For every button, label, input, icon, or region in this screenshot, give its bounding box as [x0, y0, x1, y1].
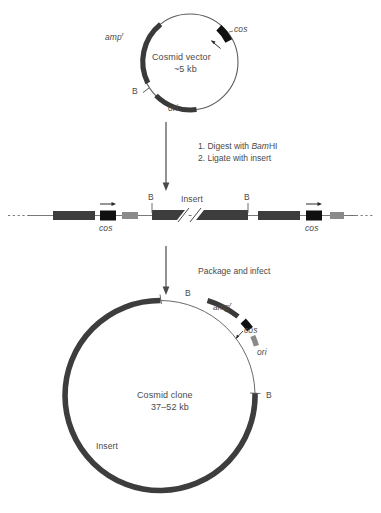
cosmid-clone-title: Cosmid clone — [137, 390, 193, 401]
ampr-block-right — [258, 211, 300, 220]
cosmid-clone-vector-arc — [161, 301, 256, 394]
cosmid-clone-size: 37–52 kb — [151, 402, 189, 413]
ori-block-right — [330, 212, 344, 219]
cos-block-left — [100, 211, 116, 221]
ori-block-left — [122, 212, 138, 219]
ampr-block-left — [53, 211, 95, 220]
bamhi-label-right-bottom-circle: B — [266, 390, 272, 401]
diagram-canvas — [0, 0, 381, 513]
cos-site-block-top — [219, 28, 229, 41]
bamhi-tick-right-bottom-circle — [250, 393, 261, 394]
cos-label-top: cos — [234, 24, 248, 35]
step-ligate-line: 2. Ligate with insert — [198, 152, 271, 164]
cos-direction-arrow-bottom — [236, 331, 243, 339]
bamhi-label-top: B — [132, 86, 138, 97]
cos-direction-arrow-left — [100, 202, 116, 206]
cosmid-cloning-diagram: ampr cos B ori Cosmid vector ~5 kb 1. Di… — [0, 0, 381, 513]
cos-label-left-middle: cos — [99, 223, 113, 234]
cos-label-right-middle: cos — [305, 223, 319, 234]
step-package-infect: Package and infect — [198, 265, 270, 277]
cos-direction-arrow-right — [306, 202, 322, 206]
cos-direction-arrow-top — [211, 40, 221, 48]
bamhi-label-left-middle: B — [148, 192, 154, 203]
ori-site-arc-bottom — [253, 336, 257, 346]
bamhi-tick-top — [143, 88, 149, 93]
cos-block-right — [306, 211, 322, 221]
insert-label-bottom: Insert — [96, 441, 118, 452]
cos-leader-top — [229, 31, 233, 32]
bamhi-label-top-bottom-circle: B — [185, 288, 191, 299]
insert-label-middle: Insert — [181, 194, 203, 205]
bamhi-label-right-middle: B — [244, 192, 250, 203]
step-digest-line: 1. Digest with BamHI — [198, 140, 277, 152]
ori-label-bottom: ori — [257, 347, 267, 358]
ampr-label-bottom: ampr — [213, 300, 232, 312]
arrow-package-infect — [163, 246, 170, 295]
arrow-digest-ligate — [163, 122, 170, 191]
insert-block-right — [196, 210, 248, 220]
ampr-label-top: ampr — [105, 30, 124, 42]
cos-label-bottom: cos — [244, 325, 258, 336]
linear-dna-group — [8, 202, 374, 222]
cosmid-vector-size: ~5 kb — [174, 64, 197, 75]
ori-label-top: ori — [168, 103, 178, 114]
cosmid-vector-title: Cosmid vector — [152, 52, 211, 63]
